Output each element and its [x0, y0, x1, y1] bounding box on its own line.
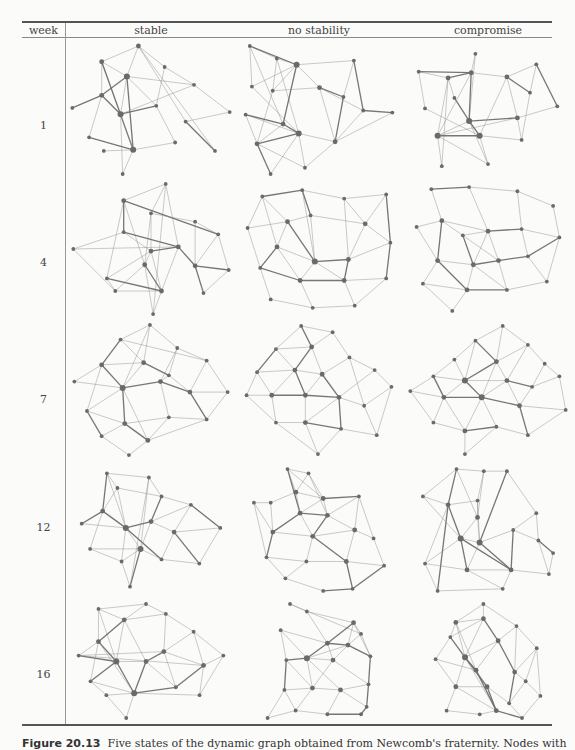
- graph-edge: [333, 332, 350, 357]
- graph-edge: [103, 511, 126, 528]
- graph-edge: [151, 522, 174, 533]
- graph-edge: [309, 473, 328, 515]
- header-stable: stable: [68, 24, 234, 37]
- graph-edge: [354, 623, 371, 657]
- graph-node: [535, 646, 539, 650]
- graph-edge: [438, 261, 467, 290]
- graph-edge: [102, 424, 125, 437]
- graph-node: [321, 496, 326, 501]
- graph-edge: [322, 357, 349, 374]
- graph-edge: [322, 374, 339, 397]
- graph-edge: [305, 142, 335, 168]
- graph-edge: [532, 364, 545, 387]
- graph-node: [384, 277, 388, 281]
- graph-edge: [386, 243, 390, 279]
- graph-node: [250, 85, 254, 89]
- graph-edge: [284, 688, 312, 690]
- graph-node: [351, 587, 355, 591]
- graph-node: [77, 654, 81, 658]
- graph-edge: [300, 499, 323, 514]
- graph-node: [294, 490, 299, 495]
- graph-node: [545, 280, 549, 284]
- graph-node: [534, 511, 538, 515]
- graph-edge: [297, 61, 354, 65]
- table-column-divider: [65, 23, 66, 724]
- graph-edge: [246, 115, 257, 144]
- graph-node: [119, 338, 123, 342]
- graph-edge: [123, 150, 133, 174]
- graph-node: [275, 245, 280, 250]
- graph-node: [512, 670, 517, 675]
- graph-edge: [483, 604, 516, 626]
- graph-edge: [473, 231, 488, 265]
- graph-edge: [89, 137, 133, 150]
- graph-node: [520, 227, 524, 231]
- graph-node: [365, 705, 369, 709]
- graph-edge: [257, 370, 295, 372]
- graph-node: [85, 409, 89, 413]
- graph-edge: [528, 410, 566, 435]
- graph-node: [479, 394, 485, 400]
- graph-node: [359, 712, 363, 716]
- row-label-week-12: 12: [22, 521, 65, 534]
- graph-edge: [150, 325, 177, 348]
- graph-edge: [457, 469, 484, 471]
- graph-edge: [268, 711, 296, 718]
- graph-node: [141, 360, 146, 365]
- graph-edge: [438, 261, 474, 265]
- graph-edge: [312, 347, 323, 374]
- graph-edge: [526, 648, 537, 681]
- graph-edge: [121, 76, 127, 114]
- graph-edge: [465, 362, 497, 381]
- graph-node: [275, 57, 279, 61]
- graph-edge: [87, 388, 123, 411]
- graph-edge: [106, 695, 126, 718]
- graph-node: [121, 198, 126, 203]
- graph-edge: [115, 265, 144, 291]
- graph-edge: [296, 711, 328, 715]
- graph-edge: [480, 711, 497, 715]
- graph-edge: [121, 340, 144, 363]
- graph-edge: [507, 64, 536, 77]
- graph-edge: [333, 660, 369, 684]
- graph-node: [501, 587, 505, 591]
- graph-node: [99, 59, 104, 64]
- graph-edge: [507, 381, 520, 406]
- graph-node: [446, 502, 451, 507]
- graph-node: [161, 649, 166, 654]
- graph-week-7-stable: [68, 320, 234, 460]
- graph-edge: [122, 528, 126, 562]
- graph-edge: [148, 419, 207, 440]
- graph-node: [228, 110, 232, 114]
- graph-edge: [315, 260, 349, 262]
- graph-node: [127, 453, 131, 457]
- header-compromise: compromise: [404, 24, 572, 37]
- graph-edge: [471, 73, 507, 77]
- graph-node: [511, 528, 515, 532]
- graph-edge: [528, 345, 545, 364]
- graph-node: [450, 309, 454, 313]
- graph-node: [149, 211, 153, 215]
- graph-edge: [267, 557, 286, 578]
- graph-edge: [144, 363, 169, 376]
- graph-week-1-compromise: [404, 42, 572, 178]
- graph-edge: [82, 524, 126, 528]
- graph-edge: [87, 365, 102, 411]
- graph-edge: [450, 637, 465, 657]
- graph-edge: [452, 290, 467, 311]
- graph-node: [331, 330, 335, 334]
- graph-node: [205, 359, 209, 363]
- graph-node: [120, 385, 126, 391]
- network-graph: [404, 320, 572, 460]
- graph-edge: [162, 247, 179, 291]
- graph-node: [453, 684, 458, 689]
- graph-edge: [456, 619, 484, 623]
- graph-edge: [138, 46, 185, 122]
- graph-node: [516, 189, 520, 193]
- graph-edge: [515, 626, 517, 672]
- graph-node: [113, 658, 119, 664]
- graph-edge: [327, 623, 353, 644]
- graph-node: [390, 385, 394, 389]
- graph-edge: [469, 187, 517, 191]
- graph-node: [547, 572, 551, 576]
